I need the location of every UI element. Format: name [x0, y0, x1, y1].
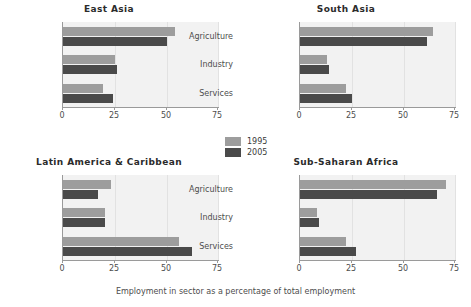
bar-group-services — [300, 232, 456, 260]
xtick-75 — [454, 260, 455, 263]
x-axis-line — [62, 107, 219, 108]
bar-2005-industry — [300, 218, 319, 227]
panel-sub-saharan-africa: Sub-Saharan Africa Agriculture Industry … — [237, 157, 455, 283]
bar-1995-services — [300, 237, 346, 246]
xtick-75 — [217, 107, 218, 110]
xtick-label-50: 50 — [161, 264, 171, 273]
xtick-label-25: 25 — [346, 264, 356, 273]
panel-title: East Asia — [0, 4, 218, 14]
xtick-25 — [114, 260, 115, 263]
xtick-label-75: 75 — [449, 264, 459, 273]
xtick-0 — [299, 107, 300, 110]
xtick-50 — [403, 107, 404, 110]
bar-2005-services — [300, 247, 356, 256]
bar-2005-services — [63, 94, 113, 103]
bar-group-agriculture — [300, 175, 456, 203]
xtick-label-0: 0 — [59, 264, 64, 273]
legend-item-1995: 1995 — [225, 136, 295, 147]
ytick-label-industry: Industry — [113, 60, 233, 69]
xtick-50 — [166, 260, 167, 263]
bar-1995-industry — [63, 55, 115, 64]
xtick-label-25: 25 — [109, 111, 119, 120]
bar-group-agriculture — [300, 22, 456, 50]
xtick-0 — [62, 260, 63, 263]
ytick-label-services: Services — [113, 242, 233, 251]
xtick-label-25: 25 — [346, 111, 356, 120]
chart-legend: 1995 2005 — [225, 136, 295, 158]
plot-area — [299, 175, 456, 260]
xtick-25 — [114, 107, 115, 110]
ytick-label-services: Services — [113, 89, 233, 98]
xtick-label-50: 50 — [398, 111, 408, 120]
xtick-25 — [351, 260, 352, 263]
x-axis-line — [62, 260, 219, 261]
x-axis-line — [299, 260, 456, 261]
bar-2005-agriculture — [300, 37, 427, 46]
xtick-75 — [217, 260, 218, 263]
ytick-label-agriculture: Agriculture — [113, 32, 233, 41]
xtick-label-50: 50 — [398, 264, 408, 273]
bar-1995-services — [300, 84, 346, 93]
xtick-0 — [299, 260, 300, 263]
xtick-label-75: 75 — [212, 111, 222, 120]
bar-1995-agriculture — [300, 180, 446, 189]
xtick-label-25: 25 — [109, 264, 119, 273]
legend-item-2005: 2005 — [225, 147, 295, 158]
bar-2005-agriculture — [63, 190, 98, 199]
legend-swatch-1995-icon — [225, 137, 241, 146]
panel-title: South Asia — [237, 4, 455, 14]
xtick-label-0: 0 — [59, 111, 64, 120]
panel-title: Sub-Saharan Africa — [237, 157, 455, 167]
bar-1995-agriculture — [300, 27, 433, 36]
bar-2005-agriculture — [300, 190, 437, 199]
legend-label-2005: 2005 — [247, 148, 267, 157]
xtick-label-50: 50 — [161, 111, 171, 120]
xtick-75 — [454, 107, 455, 110]
bar-2005-industry — [300, 65, 329, 74]
bar-1995-industry — [300, 208, 317, 217]
x-axis-caption: Employment in sector as a percentage of … — [0, 287, 471, 296]
figure: East Asia Agriculture Industry Services — [0, 0, 471, 307]
bar-group-industry — [300, 50, 456, 78]
xtick-25 — [351, 107, 352, 110]
xtick-label-75: 75 — [449, 111, 459, 120]
bar-1995-industry — [63, 208, 105, 217]
xtick-label-0: 0 — [296, 264, 301, 273]
legend-label-1995: 1995 — [247, 137, 267, 146]
ytick-label-industry: Industry — [113, 213, 233, 222]
xtick-label-75: 75 — [212, 264, 222, 273]
bar-2005-services — [300, 94, 352, 103]
ytick-label-agriculture: Agriculture — [113, 185, 233, 194]
bar-1995-industry — [300, 55, 327, 64]
bar-2005-industry — [63, 65, 117, 74]
bar-group-services — [300, 79, 456, 107]
bar-1995-services — [63, 84, 103, 93]
panel-title: Latin America & Caribbean — [0, 157, 218, 167]
bar-1995-agriculture — [63, 180, 111, 189]
x-axis-line — [299, 107, 456, 108]
xtick-50 — [403, 260, 404, 263]
xtick-0 — [62, 107, 63, 110]
bar-2005-industry — [63, 218, 105, 227]
xtick-label-0: 0 — [296, 111, 301, 120]
xtick-50 — [166, 107, 167, 110]
plot-area — [299, 22, 456, 107]
bar-group-industry — [300, 203, 456, 231]
legend-swatch-2005-icon — [225, 148, 241, 157]
panel-south-asia: South Asia Agriculture Industry Services — [237, 4, 455, 130]
